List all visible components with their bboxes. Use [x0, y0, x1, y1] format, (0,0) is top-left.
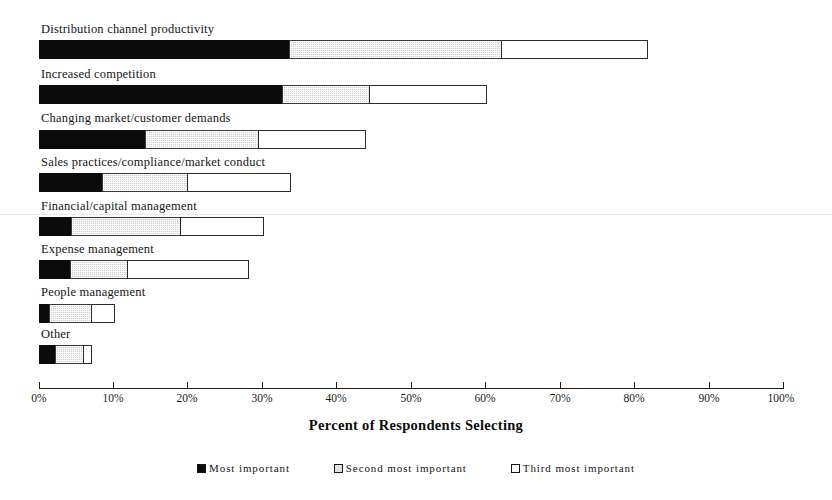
category-label: Other [41, 327, 70, 341]
bar-segment-most-important [39, 217, 72, 236]
x-axis-tick [783, 382, 784, 389]
category-label: Increased competition [41, 67, 156, 81]
shaded-gray-swatch-icon [334, 464, 343, 473]
category-label: Financial/capital management [41, 199, 197, 213]
category-label: Sales practices/compliance/market conduc… [41, 155, 265, 169]
bar-segment-most-important [39, 130, 146, 149]
stacked-bar-chart: Distribution channel productivity Increa… [0, 0, 832, 500]
stacked-bar [39, 304, 115, 323]
x-axis-tick-label: 40% [325, 392, 346, 404]
bar-segment-most-important [39, 173, 103, 192]
x-axis-tick [113, 382, 114, 389]
chart-legend: Most important Second most important Thi… [0, 462, 832, 474]
x-axis-tick-label: 60% [474, 392, 495, 404]
x-axis-tick [411, 382, 412, 389]
bar-segment-third-most-important [91, 304, 115, 323]
bar-segment-third-most-important [258, 130, 366, 149]
x-axis-title: Percent of Respondents Selecting [0, 417, 832, 434]
bar-segment-second-most-important [282, 85, 370, 104]
empty-white-swatch-icon [511, 464, 520, 473]
stacked-bar [39, 130, 366, 149]
x-axis-tick-label: 20% [176, 392, 197, 404]
bar-segment-third-most-important [127, 260, 249, 279]
bar-segment-third-most-important [187, 173, 290, 192]
x-axis-tick [560, 382, 561, 389]
x-axis-tick-label: 70% [549, 392, 570, 404]
x-axis-tick-label: 80% [623, 392, 644, 404]
x-axis-tick [709, 382, 710, 389]
legend-label: Most important [209, 462, 290, 474]
stacked-bar [39, 345, 92, 364]
bar-segment-third-most-important [83, 345, 92, 364]
x-axis-tick-label: 50% [400, 392, 421, 404]
x-axis-tick [336, 382, 337, 389]
bar-segment-second-most-important [71, 217, 181, 236]
stacked-bar [39, 260, 249, 279]
category-label: Changing market/customer demands [41, 111, 231, 125]
bar-segment-most-important [39, 40, 290, 59]
bar-segment-second-most-important [289, 40, 503, 59]
category-label: Distribution channel productivity [41, 22, 214, 36]
bar-segment-most-important [39, 345, 56, 364]
bar-segment-second-most-important [102, 173, 188, 192]
x-axis-tick [187, 382, 188, 389]
x-axis-tick-label: 30% [251, 392, 272, 404]
legend-label: Second most important [346, 462, 467, 474]
filled-black-swatch-icon [197, 464, 206, 473]
bar-segment-third-most-important [180, 217, 264, 236]
bar-segment-second-most-important [145, 130, 259, 149]
legend-item-second-most-important: Second most important [334, 462, 467, 474]
x-axis-tick [634, 382, 635, 389]
bar-segment-second-most-important [70, 260, 128, 279]
category-label: People management [41, 285, 145, 299]
x-axis-tick [39, 382, 40, 389]
x-axis-tick-label: 10% [102, 392, 123, 404]
stacked-bar [39, 217, 264, 236]
plot-area: Distribution channel productivity Increa… [39, 22, 783, 374]
x-axis-tick-label: 100% [768, 392, 795, 404]
stacked-bar [39, 173, 291, 192]
category-label: Expense management [41, 242, 154, 256]
stacked-bar [39, 40, 648, 59]
bar-segment-most-important [39, 260, 71, 279]
legend-item-most-important: Most important [197, 462, 290, 474]
x-axis-tick-label: 0% [31, 392, 46, 404]
legend-item-third-most-important: Third most important [511, 462, 635, 474]
bar-segment-second-most-important [55, 345, 84, 364]
x-axis-tick-label: 90% [698, 392, 719, 404]
bar-segment-third-most-important [369, 85, 487, 104]
bar-segment-second-most-important [49, 304, 92, 323]
legend-label: Third most important [523, 462, 635, 474]
bar-segment-most-important [39, 85, 283, 104]
x-axis-tick [485, 382, 486, 389]
stacked-bar [39, 85, 487, 104]
bar-segment-third-most-important [501, 40, 648, 59]
x-axis-tick [262, 382, 263, 389]
